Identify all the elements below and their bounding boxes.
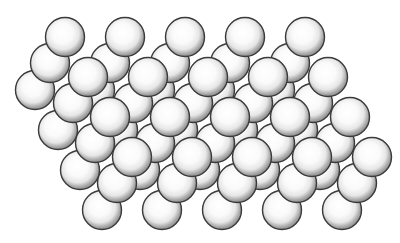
sphere <box>249 58 288 97</box>
sphere-layers <box>16 18 392 230</box>
sphere <box>286 18 325 57</box>
sphere <box>166 18 205 57</box>
sphere <box>353 138 392 177</box>
sphere <box>129 58 168 97</box>
sphere <box>106 18 145 57</box>
sphere-lattice <box>0 0 400 243</box>
sphere-packing-diagram: Close-packed sphere layers <box>0 0 400 243</box>
sphere <box>211 98 250 137</box>
sphere <box>151 98 190 137</box>
sphere <box>189 58 228 97</box>
sphere <box>46 18 85 57</box>
sphere <box>91 98 130 137</box>
sphere <box>331 98 370 137</box>
sphere <box>293 138 332 177</box>
sphere <box>233 138 272 177</box>
sphere <box>113 138 152 177</box>
sphere <box>309 58 348 97</box>
sphere <box>226 18 265 57</box>
sphere <box>69 58 108 97</box>
sphere <box>173 138 212 177</box>
sphere <box>271 98 310 137</box>
